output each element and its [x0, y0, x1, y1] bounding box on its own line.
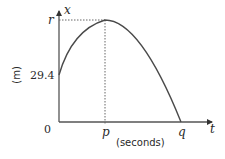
q-label: q — [178, 125, 186, 139]
r-label: r — [48, 13, 55, 27]
height-time-graph: x r 29.4 (m) 0 p q t (seconds) — [0, 0, 225, 159]
x-unit-label: (seconds) — [116, 137, 165, 148]
origin-label: 0 — [44, 123, 51, 136]
trajectory-curve — [59, 20, 181, 122]
x-axis-symbol: x — [64, 3, 71, 17]
t-axis-symbol: t — [210, 122, 215, 136]
y-unit-label: (m) — [11, 66, 22, 84]
y-value-29-4: 29.4 — [30, 69, 55, 82]
p-label: p — [102, 125, 110, 139]
